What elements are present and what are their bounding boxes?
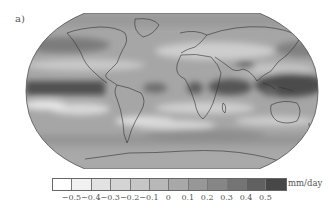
- colorbar-bin: [53, 179, 72, 190]
- colorbar-bin: [247, 179, 266, 190]
- colorbar-bin: [131, 179, 150, 190]
- map-svg: [25, 13, 319, 169]
- colorbar-bin: [72, 179, 91, 190]
- colorbar-unit-label: mm/day: [288, 178, 322, 188]
- colorbar-tick-label: 0: [166, 193, 171, 202]
- colorbar-tick-label: −0.3: [100, 193, 119, 202]
- colorbar: [52, 178, 287, 191]
- colorbar-tick-label: 0.4: [240, 193, 253, 202]
- colorbar-bin: [208, 179, 227, 190]
- colorbar-tick-label: 0.3: [220, 193, 233, 202]
- colorbar-tick-label: 0.5: [259, 193, 272, 202]
- colorbar-tick-label: −0.1: [139, 193, 158, 202]
- colorbar-tick-labels: −0.5−0.4−0.3−0.2−0.100.10.20.30.40.5: [52, 193, 292, 205]
- colorbar-bin: [189, 179, 208, 190]
- colorbar-bin: [111, 179, 130, 190]
- colorbar-tick-label: 0.1: [181, 193, 194, 202]
- global-precipitation-map: [25, 13, 319, 169]
- colorbar-bin: [92, 179, 111, 190]
- colorbar-tick-label: −0.5: [62, 193, 81, 202]
- colorbar-bin: [150, 179, 169, 190]
- colorbar-bin: [266, 179, 285, 190]
- panel-label: a): [15, 13, 25, 24]
- colorbar-tick-label: −0.2: [120, 193, 139, 202]
- colorbar-bin: [169, 179, 188, 190]
- colorbar-tick-label: 0.2: [201, 193, 214, 202]
- colorbar-tick-label: −0.4: [81, 193, 100, 202]
- colorbar-bin: [228, 179, 247, 190]
